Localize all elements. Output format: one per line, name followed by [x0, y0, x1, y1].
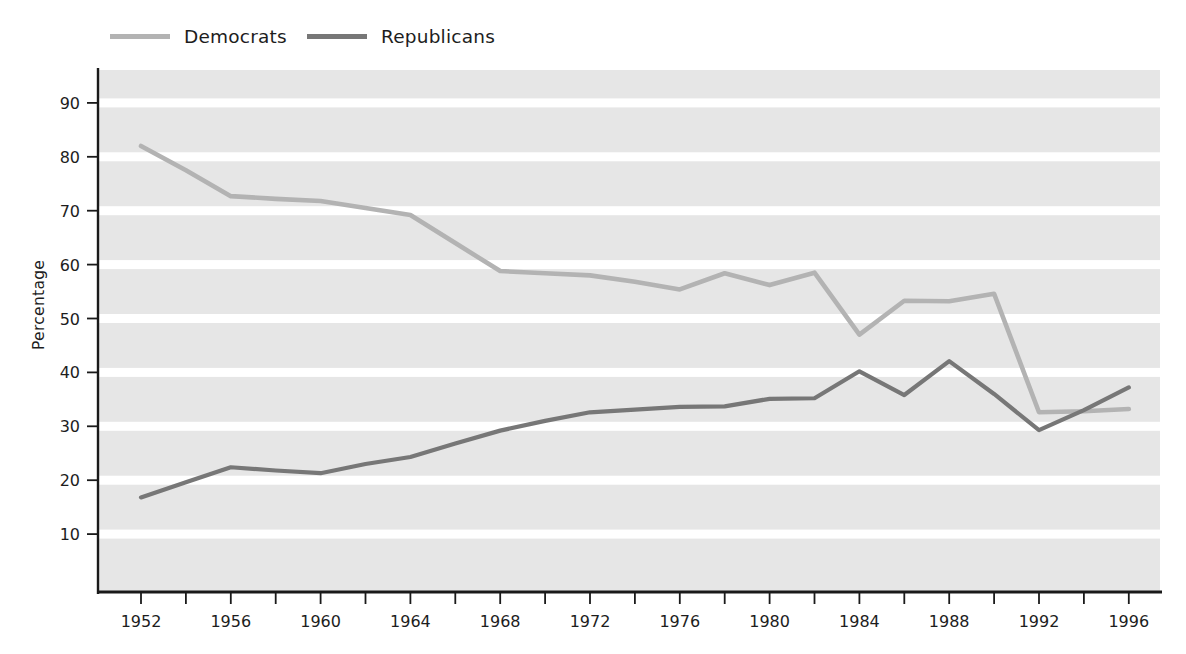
y-tick-label-40: 40	[36, 363, 80, 382]
x-tick-label-1952: 1952	[121, 612, 162, 631]
x-tick-label-1960: 1960	[300, 612, 341, 631]
gridline-40	[98, 368, 1160, 377]
gridline-90	[98, 98, 1160, 107]
y-tick-label-70: 70	[36, 201, 80, 220]
y-tick-label-60: 60	[36, 255, 80, 274]
x-tick-label-1984: 1984	[839, 612, 880, 631]
x-tick-label-1980: 1980	[749, 612, 790, 631]
gridline-80	[98, 152, 1160, 161]
x-tick-label-1972: 1972	[570, 612, 611, 631]
y-tick-label-20: 20	[36, 471, 80, 490]
x-tick-label-1968: 1968	[480, 612, 521, 631]
plot-area	[0, 0, 1186, 654]
plot-background	[98, 70, 1160, 592]
gridline-60	[98, 260, 1160, 269]
y-tick-label-90: 90	[36, 93, 80, 112]
x-tick-label-1964: 1964	[390, 612, 431, 631]
y-tick-label-50: 50	[36, 309, 80, 328]
x-tick-label-1992: 1992	[1019, 612, 1060, 631]
x-tick-label-1956: 1956	[210, 612, 251, 631]
gridline-20	[98, 476, 1160, 485]
gridline-30	[98, 422, 1160, 431]
y-tick-label-30: 30	[36, 417, 80, 436]
line-chart-figure: Democrats Republicans Percentage 1020304…	[0, 0, 1186, 654]
gridline-70	[98, 206, 1160, 215]
y-tick-label-10: 10	[36, 525, 80, 544]
y-tick-label-80: 80	[36, 147, 80, 166]
x-tick-label-1996: 1996	[1108, 612, 1149, 631]
gridline-10	[98, 530, 1160, 539]
x-tick-label-1988: 1988	[929, 612, 970, 631]
x-tick-label-1976: 1976	[659, 612, 700, 631]
